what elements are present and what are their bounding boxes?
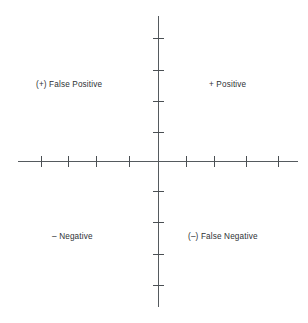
quadrant-diagram-canvas: (+) False Positive + Positive – Negative… [0,0,308,323]
quadrant-label-negative: – Negative [52,232,93,242]
quadrant-label-false-negative: (–) False Negative [188,232,258,242]
axes-and-ticks-graphic [0,0,308,323]
quadrant-label-false-positive: (+) False Positive [36,80,102,90]
quadrant-label-positive: + Positive [209,80,246,90]
